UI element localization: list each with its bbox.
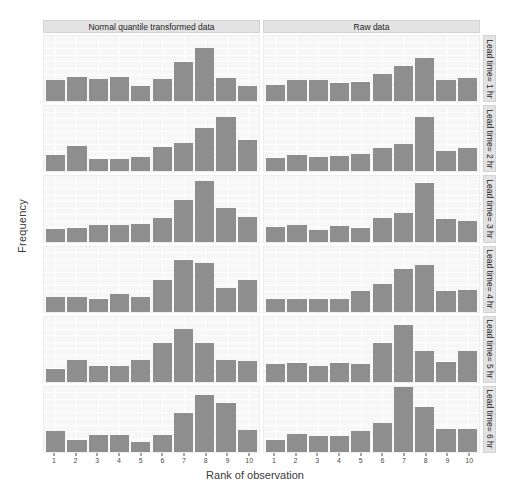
bar-series (264, 36, 479, 101)
facet-row: 0.000.050.100.150.200.25Lead time= 5 hr (43, 316, 496, 383)
bar (394, 269, 413, 312)
bar (436, 80, 455, 101)
facet-grid: Normal quantile transformed dataRaw data… (43, 20, 496, 453)
bar (458, 78, 477, 101)
row-strip-label: Lead time= 3 hr (483, 175, 496, 242)
bar (46, 431, 65, 452)
bar (309, 230, 328, 242)
bar (238, 217, 257, 242)
facet-panel (263, 175, 480, 242)
x-tick-text: 8 (424, 457, 428, 464)
bar (89, 225, 108, 241)
bar (110, 225, 129, 242)
row-strip-label: Lead time= 4 hr (483, 246, 496, 313)
x-tick-text: 7 (402, 457, 406, 464)
facet-row: 0.000.050.100.150.200.25Lead time= 3 hr (43, 175, 496, 242)
y-tick-mark (43, 131, 44, 132)
bar (415, 58, 434, 101)
x-tick-text: 9 (446, 457, 450, 464)
x-tick-label: 2 (285, 453, 307, 469)
y-tick-mark (43, 285, 44, 286)
bar (394, 387, 413, 452)
y-tick-mark (43, 48, 44, 49)
x-tick-panel: 12345678910 (43, 453, 260, 469)
y-tick-mark (43, 311, 44, 312)
y-tick-mark (43, 425, 44, 426)
y-tick-mark (43, 61, 44, 62)
row-strip-label: Lead time= 5 hr (483, 316, 496, 383)
x-tick-mark (227, 453, 228, 456)
y-tick-mark (43, 87, 44, 88)
bar (394, 325, 413, 382)
y-tick-mark (43, 438, 44, 439)
facet-panel: 0.000.050.100.150.200.25 (43, 386, 260, 453)
bar (351, 228, 370, 242)
x-tick-text: 3 (95, 457, 99, 464)
facet-row: 0.000.050.100.150.200.25Lead time= 4 hr (43, 246, 496, 313)
bar (46, 155, 65, 171)
bar (351, 82, 370, 102)
x-tick-label: 1 (43, 453, 65, 469)
bar (309, 366, 328, 382)
x-tick-text: 4 (117, 457, 121, 464)
bar (436, 291, 455, 312)
bar (458, 290, 477, 312)
y-tick-mark (43, 105, 44, 106)
bar (373, 423, 392, 452)
bar (266, 299, 285, 312)
bar-series (44, 106, 259, 171)
x-tick-label: 9 (437, 453, 459, 469)
x-axis-title: Rank of observation (0, 469, 510, 481)
x-tick-mark (75, 453, 76, 456)
y-tick-mark (43, 368, 44, 369)
row-strip-label: Lead time= 2 hr (483, 105, 496, 172)
bar (89, 159, 108, 172)
y-axis-ticks: 0.000.050.100.150.200.25 (43, 317, 44, 382)
bar (330, 156, 349, 171)
y-tick-mark (43, 272, 44, 273)
bar (67, 360, 86, 382)
y-tick-mark (43, 157, 44, 158)
y-tick-mark (43, 355, 44, 356)
row-strip-text: Lead time= 1 hr (485, 39, 495, 98)
y-tick-mark (43, 451, 44, 452)
x-tick-mark (295, 453, 296, 456)
bar (309, 299, 328, 312)
bar-series (264, 176, 479, 241)
bar (174, 200, 193, 242)
y-axis-ticks: 0.000.050.100.150.200.25 (43, 176, 44, 241)
row-strip-label: Lead time= 1 hr (483, 35, 496, 102)
x-tick-text: 8 (204, 457, 208, 464)
x-tick-mark (205, 453, 206, 456)
x-tick-text: 2 (74, 457, 78, 464)
x-tick-label: 3 (306, 453, 328, 469)
x-tick-text: 1 (52, 457, 56, 464)
bar (195, 128, 214, 172)
bar (458, 429, 477, 452)
y-axis-ticks: 0.000.050.100.150.200.25 (43, 36, 44, 101)
row-strip-text: Lead time= 2 hr (485, 109, 495, 168)
x-tick-label: 2 (65, 453, 87, 469)
bar (110, 159, 129, 172)
facet-panel (263, 246, 480, 313)
row-strip-label: Lead time= 6 hr (483, 386, 496, 453)
bar (415, 265, 434, 312)
bar (287, 434, 306, 452)
y-tick-mark (43, 175, 44, 176)
bar (195, 48, 214, 101)
bar (373, 148, 392, 171)
bar (195, 395, 214, 452)
bar-series (264, 247, 479, 312)
panel-rows: 0.000.050.100.150.200.25Lead time= 1 hr0… (43, 35, 496, 453)
bar (238, 86, 257, 101)
bar (309, 80, 328, 101)
y-tick-mark (43, 241, 44, 242)
bar (67, 228, 86, 241)
x-tick-mark (447, 453, 448, 456)
bar (216, 360, 235, 382)
bar-series (44, 176, 259, 241)
bar (287, 225, 306, 242)
rank-histogram-figure: Frequency Rank of observation Normal qua… (0, 0, 510, 487)
bar (266, 440, 285, 453)
bar-series (264, 106, 479, 171)
